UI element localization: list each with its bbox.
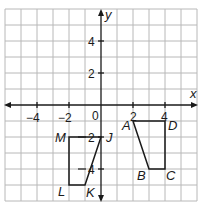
vertex-label-b: B xyxy=(137,168,146,183)
x-tick-neg2: −2 xyxy=(58,111,72,125)
vertex-label-a: A xyxy=(121,118,131,133)
vertex-label-d: D xyxy=(168,118,177,133)
vertex-label-m: M xyxy=(55,130,66,145)
y-tick-neg2: 2 xyxy=(88,131,95,145)
vertex-label-c: C xyxy=(166,168,176,183)
x-tick-neg4: −4 xyxy=(26,111,40,125)
y-tick-4: 4 xyxy=(88,35,95,49)
vertex-label-k: K xyxy=(86,185,96,200)
y-tick-2: 2 xyxy=(88,67,95,81)
vertex-label-j: J xyxy=(105,130,113,145)
vertex-label-l: L xyxy=(58,184,65,199)
origin-label: 0 xyxy=(92,109,99,123)
x-axis-label: x xyxy=(189,86,197,101)
coordinate-plane: x y −4 −2 0 2 4 4 2 2 4 A B C D J K L M xyxy=(0,0,202,204)
